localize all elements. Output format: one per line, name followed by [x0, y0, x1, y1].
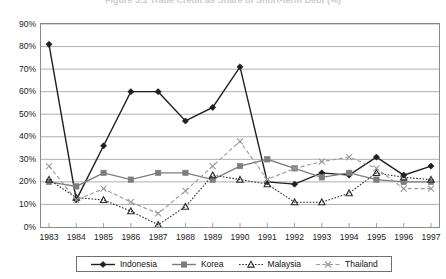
data-point-square: [74, 184, 79, 189]
x-axis-tick-label: 1995: [367, 233, 386, 242]
y-axis-tick-label: 60%: [0, 87, 36, 96]
x-axis-tick-label: 1988: [176, 233, 195, 242]
x-axis-tick-label: 1991: [258, 233, 277, 242]
legend-label: Indonesia: [120, 260, 157, 269]
x-axis-tick-label: 1994: [340, 233, 359, 242]
legend-item-malaysia[interactable]: Malaysia: [238, 259, 302, 270]
x-axis-tick-label: 1986: [121, 233, 140, 242]
legend-item-korea[interactable]: Korea: [171, 259, 224, 270]
data-point-diamond: [100, 143, 106, 149]
data-point-square: [183, 170, 188, 175]
x-axis-ticks: [49, 223, 431, 227]
data-point-triangle: [346, 190, 352, 196]
legend-marker-cross-icon: [315, 259, 341, 270]
data-point-square: [265, 157, 270, 162]
plot-svg: [41, 24, 439, 227]
legend-item-indonesia[interactable]: Indonesia: [90, 259, 157, 270]
data-point-cross: [46, 163, 52, 169]
y-axis-tick-label: 80%: [0, 42, 36, 51]
x-axis-tick-label: 1989: [203, 233, 222, 242]
x-axis-tick-label: 1993: [312, 233, 331, 242]
data-point-square: [237, 163, 242, 168]
x-axis-tick-label: 1992: [285, 233, 304, 242]
data-point-square: [101, 170, 106, 175]
y-axis-tick-label: 70%: [0, 65, 36, 74]
data-point-triangle: [128, 208, 134, 214]
data-point-cross: [155, 210, 161, 216]
data-point-square: [128, 177, 133, 182]
chart-legend: IndonesiaKoreaMalaysiaThailand: [76, 256, 392, 272]
x-axis-tick-label: 1984: [67, 233, 86, 242]
legend-label: Malaysia: [268, 260, 302, 269]
legend-marker-triangle-icon: [238, 259, 264, 270]
plot-area: [40, 23, 440, 228]
legend-marker-square-icon: [171, 259, 197, 270]
y-axis-tick-label: 50%: [0, 110, 36, 119]
data-point-square: [155, 170, 160, 175]
y-axis-tick-label: 40%: [0, 132, 36, 141]
y-axis-tick-label: 20%: [0, 177, 36, 186]
y-axis-tick-label: 10%: [0, 200, 36, 209]
data-point-square: [181, 261, 186, 266]
figure-title: Figure 3.1 Trade Credit as Share of Shor…: [0, 0, 446, 5]
data-point-cross: [237, 138, 243, 144]
y-axis-tick-label: 90%: [0, 20, 36, 29]
data-point-diamond: [100, 261, 106, 267]
legend-label: Thailand: [345, 260, 378, 269]
x-axis-tick-label: 1996: [394, 233, 413, 242]
x-axis-tick-label: 1990: [231, 233, 250, 242]
data-point-square: [374, 177, 379, 182]
x-axis-labels: 1983198419851986198719881989199019911992…: [40, 233, 440, 245]
data-point-cross: [210, 163, 216, 169]
data-point-cross: [401, 186, 407, 192]
gridlines: [41, 24, 439, 227]
y-axis-tick-label: 0%: [0, 223, 36, 232]
legend-item-thailand[interactable]: Thailand: [315, 259, 378, 270]
y-axis-tick-label: 30%: [0, 155, 36, 164]
y-axis-labels: 90%80%70%60%50%40%30%20%10%0%: [0, 0, 36, 279]
x-axis-tick-label: 1985: [94, 233, 113, 242]
data-point-diamond: [128, 89, 134, 95]
data-point-cross: [182, 188, 188, 194]
legend-label: Korea: [201, 260, 224, 269]
chart-container: Figure 3.1 Trade Credit as Share of Shor…: [0, 0, 446, 279]
x-axis-tick-label: 1997: [422, 233, 441, 242]
x-axis-tick-label: 1983: [40, 233, 59, 242]
data-point-cross: [101, 186, 107, 192]
data-point-diamond: [428, 163, 434, 169]
data-point-square: [346, 170, 351, 175]
data-point-square: [319, 175, 324, 180]
legend-marker-diamond-icon: [90, 259, 116, 270]
x-axis-tick-label: 1987: [149, 233, 168, 242]
